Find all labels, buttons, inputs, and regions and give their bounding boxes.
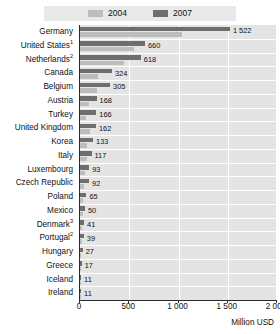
x-axis-tick-label: 1 000 [167, 302, 188, 311]
bar-2004 [80, 102, 89, 107]
bar-2007 [80, 41, 145, 46]
bar-2004 [80, 253, 81, 258]
bar-2007 [80, 151, 92, 156]
bar-rows: 1 52266061832430516816616213311793926550… [80, 25, 276, 300]
category-label: Luxembourg [27, 163, 73, 177]
bar-2007 [80, 27, 230, 32]
bar-2004 [80, 74, 98, 79]
bar-2004 [80, 294, 81, 299]
bar-2004 [80, 88, 97, 93]
bar-group: 162 [80, 121, 276, 135]
bar-2004 [80, 212, 83, 217]
bar-value-label: 168 [100, 95, 112, 106]
bar-2004 [80, 184, 84, 189]
bar-value-label: 117 [95, 150, 107, 161]
bar-group: 41 [80, 218, 276, 232]
bar-group: 166 [80, 108, 276, 122]
bar-group: 17 [80, 259, 276, 273]
bar-value-label: 17 [85, 260, 93, 271]
bar-2007 [80, 69, 112, 74]
bar-value-label: 92 [92, 178, 100, 189]
bar-2004 [80, 47, 134, 52]
category-label: United States1 [21, 39, 73, 53]
gridline [277, 25, 278, 300]
bar-value-label: 166 [99, 109, 111, 120]
chart-figure: 2004 2007 GermanyUnited States1Netherlan… [0, 0, 280, 334]
bar-value-label: 50 [88, 205, 96, 216]
x-axis-tick-label: 1 500 [217, 302, 238, 311]
category-label: Mexico [47, 204, 73, 218]
bar-group: 65 [80, 190, 276, 204]
category-label: Turkey [48, 108, 73, 122]
bar-2004 [80, 116, 86, 121]
bar-2007 [80, 261, 82, 266]
legend-label-2004: 2004 [108, 9, 127, 18]
bar-value-label: 133 [96, 136, 108, 147]
category-label: Belgium [43, 80, 73, 94]
plot-canvas: 1 52266061832430516816616213311793926550… [79, 25, 276, 300]
category-label: Ireland [48, 286, 73, 300]
bar-group: 660 [80, 39, 276, 53]
bar-group: 117 [80, 149, 276, 163]
category-label: Canada [44, 66, 73, 80]
bar-group: 168 [80, 94, 276, 108]
category-label: Korea [51, 135, 73, 149]
bar-value-label: 41 [87, 219, 95, 230]
category-label: Netherlands2 [26, 53, 73, 67]
legend-swatch-2004 [88, 10, 103, 17]
bar-2004 [80, 129, 90, 134]
bar-group: 1 522 [80, 25, 276, 39]
bar-group: 305 [80, 80, 276, 94]
category-footnote-marker: 2 [70, 53, 73, 59]
category-label: Poland [48, 190, 74, 204]
bar-2004 [80, 239, 82, 244]
category-label: Italy [58, 149, 73, 163]
bar-value-label: 324 [115, 68, 127, 79]
legend-label-2007: 2007 [173, 9, 192, 18]
category-label: Portugal2 [39, 231, 73, 245]
bar-value-label: 660 [148, 40, 160, 51]
x-axis-line [79, 300, 276, 301]
category-label: Czech Republic [16, 176, 73, 190]
bar-2004 [80, 171, 85, 176]
chart-legend: 2004 2007 [44, 6, 236, 21]
legend-item-2007: 2007 [153, 9, 192, 18]
bar-2007 [80, 165, 89, 170]
bar-2007 [80, 289, 81, 294]
bar-2004 [80, 143, 87, 148]
bar-group: 11 [80, 273, 276, 287]
category-label: Greece [46, 259, 73, 273]
bar-2004 [80, 198, 83, 203]
bar-group: 39 [80, 231, 276, 245]
plot-area: GermanyUnited States1Netherlands2CanadaB… [0, 25, 280, 306]
bar-2007 [80, 193, 86, 198]
bar-value-label: 11 [84, 288, 92, 299]
category-label: Denmark3 [37, 218, 73, 232]
bar-value-label: 162 [99, 123, 111, 134]
bar-2007 [80, 234, 84, 239]
bar-group: 133 [80, 135, 276, 149]
bar-2007 [80, 220, 84, 225]
bar-value-label: 1 522 [233, 25, 252, 36]
legend-swatch-2007 [153, 10, 168, 17]
bar-group: 50 [80, 204, 276, 218]
bar-value-label: 39 [87, 233, 95, 244]
bar-group: 92 [80, 176, 276, 190]
bar-2007 [80, 83, 110, 88]
bar-group: 27 [80, 245, 276, 259]
category-axis: GermanyUnited States1Netherlands2CanadaB… [0, 25, 76, 300]
category-label: Austria [48, 94, 73, 108]
category-footnote-marker: 1 [70, 39, 73, 45]
bar-2007 [80, 179, 89, 184]
x-axis-tick-label: 0 [77, 302, 82, 311]
bar-2004 [80, 157, 87, 162]
x-axis-tick-label: 2 000 [266, 302, 280, 311]
bar-2007 [80, 275, 81, 280]
category-footnote-marker: 3 [70, 218, 73, 224]
axis-unit-label: Million USD [231, 318, 274, 327]
bar-value-label: 11 [84, 274, 92, 285]
bar-2004 [80, 281, 81, 286]
bar-2007 [80, 55, 141, 60]
bar-value-label: 93 [92, 164, 100, 175]
bar-2004 [80, 226, 82, 231]
